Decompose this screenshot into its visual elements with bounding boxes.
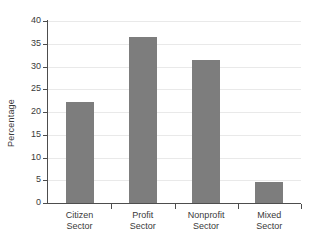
x-tick-label-line: Sector [112,221,174,232]
y-tick-label: 40 [17,16,41,25]
x-tick-label: CitizenSector [49,210,111,232]
y-tick-label: 0 [17,198,41,207]
y-tick-label: 35 [17,39,41,48]
bar [129,37,157,203]
x-tick-label-line: Profit [112,210,174,221]
gridline [48,44,301,45]
x-tick-label-line: Sector [175,221,237,232]
y-tick-mark [43,203,48,204]
plot-area [48,21,301,203]
gridline [48,89,301,90]
x-tick-mark [301,204,302,209]
y-tick-label: 20 [17,107,41,116]
y-tick-label: 10 [17,153,41,162]
x-tick-mark [238,204,239,209]
y-axis-title: Percentage [0,0,22,246]
bar [66,102,94,203]
x-tick-label-line: Mixed [238,210,300,221]
x-tick-mark [111,204,112,209]
x-tick-label-line: Nonprofit [175,210,237,221]
y-tick-label: 25 [17,84,41,93]
x-tick-label-line: Sector [49,221,111,232]
x-tick-label-line: Citizen [49,210,111,221]
y-tick-label: 30 [17,62,41,71]
x-tick-mark [175,204,176,209]
y-tick-label: 15 [17,130,41,139]
bar-chart: Percentage 0510152025303540 CitizenSecto… [0,0,309,246]
x-tick-label: NonprofitSector [175,210,237,232]
bar [192,60,220,203]
x-tick-label: ProfitSector [112,210,174,232]
bar [255,182,283,203]
x-tick-label-line: Sector [238,221,300,232]
gridline [48,67,301,68]
x-tick-label: MixedSector [238,210,300,232]
gridline [48,21,301,22]
y-tick-label: 5 [17,175,41,184]
